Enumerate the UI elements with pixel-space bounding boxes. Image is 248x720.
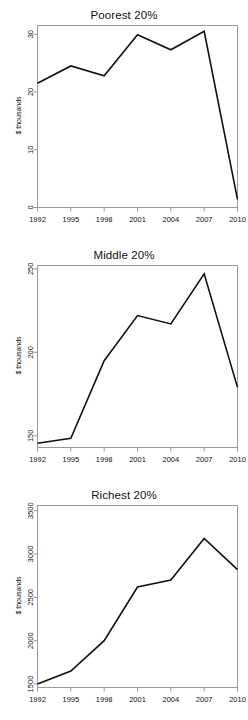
y-tick-label: 2000 <box>26 632 35 649</box>
plot-area-middle: 1502002501992199519982001200420072010 <box>0 240 248 480</box>
x-tick-label: 1998 <box>96 695 113 704</box>
data-series-line <box>38 31 238 199</box>
y-tick-label: 2500 <box>26 589 35 606</box>
x-tick-label: 2007 <box>196 215 213 224</box>
x-tick-label: 2001 <box>129 455 146 464</box>
x-tick-label: 1995 <box>62 455 79 464</box>
y-tick-label: 0 <box>26 205 35 209</box>
x-tick-label: 2004 <box>162 215 179 224</box>
x-tick-label: 2010 <box>229 695 246 704</box>
x-tick-label: 1998 <box>96 455 113 464</box>
y-tick-label: 20 <box>26 88 35 96</box>
y-tick-label: 250 <box>26 263 35 276</box>
x-tick-label: 1992 <box>29 215 46 224</box>
chart-panel-richest: Richest 20% $ thousands 1500200025003000… <box>0 480 248 720</box>
x-tick-label: 2007 <box>196 455 213 464</box>
x-tick-label: 2001 <box>129 215 146 224</box>
y-tick-label: 1500 <box>26 676 35 693</box>
x-tick-label: 2007 <box>196 695 213 704</box>
data-series-line <box>38 538 238 684</box>
x-tick-label: 2010 <box>229 455 246 464</box>
x-tick-label: 2010 <box>229 215 246 224</box>
y-tick-label: 3500 <box>26 502 35 519</box>
chart-panel-poorest: Poorest 20% $ thousands 0102030199219951… <box>0 0 248 240</box>
y-tick-label: 30 <box>26 30 35 38</box>
y-tick-label: 10 <box>26 146 35 154</box>
figure-canvas: Poorest 20% $ thousands 0102030199219951… <box>0 0 248 720</box>
y-tick-label: 3000 <box>26 546 35 563</box>
x-tick-label: 1998 <box>96 215 113 224</box>
plot-area-richest: 1500200025003000350019921995199820012004… <box>0 480 248 720</box>
y-tick-label: 200 <box>26 346 35 359</box>
x-tick-label: 2001 <box>129 695 146 704</box>
data-series-line <box>38 274 238 443</box>
x-tick-label: 2004 <box>162 695 179 704</box>
chart-panel-middle: Middle 20% $ thousands 15020025019921995… <box>0 240 248 480</box>
x-tick-label: 2004 <box>162 455 179 464</box>
x-tick-label: 1992 <box>29 455 46 464</box>
x-tick-label: 1992 <box>29 695 46 704</box>
x-tick-label: 1995 <box>62 215 79 224</box>
x-tick-label: 1995 <box>62 695 79 704</box>
plot-area-poorest: 01020301992199519982001200420072010 <box>0 0 248 240</box>
y-tick-label: 150 <box>26 430 35 443</box>
